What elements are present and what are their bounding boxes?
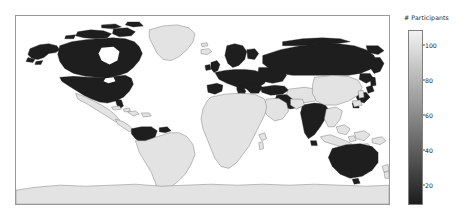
colorbar-tick-label: 60 <box>425 111 433 118</box>
colorbar-tick-label: 100 <box>425 41 437 48</box>
tick-mark <box>423 115 426 116</box>
colorbar-tick-label: 80 <box>425 76 433 83</box>
colorbar-tick-labels: 100 80 60 40 20 <box>425 30 467 205</box>
tick-mark <box>423 45 426 46</box>
tick-mark <box>423 80 426 81</box>
colorbar: # Participants 100 80 60 40 20 <box>404 14 468 209</box>
colorbar-tick-40: 40 <box>425 146 433 153</box>
colorbar-tick-label: 20 <box>425 181 433 188</box>
world-map-svg: .land { fill:#e3e3e3; stroke:#707070; st… <box>16 16 389 204</box>
choropleth-figure: .land { fill:#e3e3e3; stroke:#707070; st… <box>0 0 468 223</box>
tick-mark <box>423 150 426 151</box>
tick-mark <box>423 185 426 186</box>
colorbar-gradient <box>408 30 423 205</box>
colorbar-tick-60: 60 <box>425 111 433 118</box>
colorbar-tick-100: 100 <box>425 41 437 48</box>
region-china <box>312 75 364 107</box>
world-map-panel: .land { fill:#e3e3e3; stroke:#707070; st… <box>15 15 390 205</box>
colorbar-title: # Participants <box>404 14 449 22</box>
colorbar-tick-80: 80 <box>425 76 433 83</box>
colorbar-tick-label: 40 <box>425 146 433 153</box>
colorbar-tick-20: 20 <box>425 181 433 188</box>
region-antarctica <box>16 184 389 204</box>
